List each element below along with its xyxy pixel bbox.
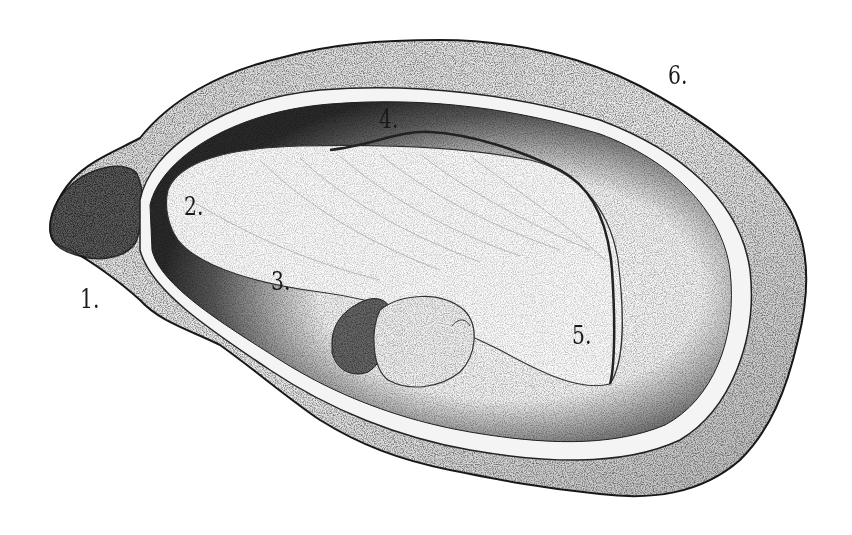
label-4-palp: 4. <box>379 106 398 132</box>
label-6-shell: 6. <box>668 62 687 88</box>
oyster-drawing <box>0 0 852 535</box>
label-1-hinge: 1. <box>80 286 99 312</box>
oyster-illustration: 1. 2. 3. 4. 5. 6. <box>0 0 852 535</box>
label-5-gills: 5. <box>572 322 591 348</box>
label-3-body: 3. <box>271 268 290 294</box>
label-2-mouth: 2. <box>184 193 203 219</box>
